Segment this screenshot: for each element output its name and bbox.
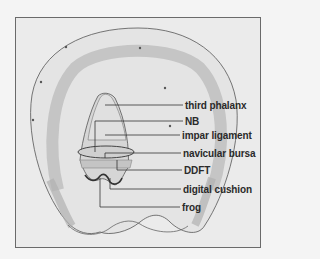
ddft-band [80, 160, 132, 168]
label-third-phalanx: third phalanx [185, 100, 246, 111]
navicular-bone [78, 146, 134, 158]
label-ddft: DDFT [184, 165, 210, 176]
label-navicular-bursa: navicular bursa [183, 148, 255, 159]
label-frog: frog [182, 202, 201, 213]
label-impar-ligament: impar ligament [182, 130, 252, 141]
label-digital-cushion: digital cushion [183, 184, 252, 195]
label-nb: NB [185, 116, 199, 127]
